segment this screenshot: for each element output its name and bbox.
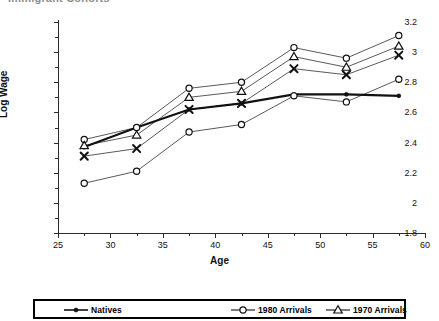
y-axis-minor-tick xyxy=(55,37,58,38)
x-axis-tick-label: 50 xyxy=(315,240,325,250)
y-axis-tick xyxy=(54,82,59,83)
x-axis-tick xyxy=(215,233,216,238)
legend-item-natives[interactable]: Natives xyxy=(63,302,122,318)
y-axis-minor-tick xyxy=(55,188,58,189)
y-axis-tick-label: 3.2 xyxy=(404,17,417,27)
legend-label: 1970 Arrivals xyxy=(353,305,407,315)
y-axis-tick xyxy=(54,22,59,23)
x-axis-title: Age xyxy=(0,255,439,266)
y-axis-tick xyxy=(54,143,59,144)
data-point-filled-circle xyxy=(74,308,78,312)
legend-label: 1980 Arrivals xyxy=(258,305,312,315)
data-point-open-circle xyxy=(240,307,246,313)
legend-marker-open-triangle-icon xyxy=(325,303,351,317)
x-axis-minor-tick xyxy=(84,233,85,236)
y-axis-tick-label: 2 xyxy=(412,198,417,208)
y-axis-tick-label: 3 xyxy=(412,47,417,57)
x-axis-tick xyxy=(320,233,321,238)
x-axis-tick-label: 45 xyxy=(263,240,273,250)
legend-item-1970-arrivals[interactable]: 1970 Arrivals xyxy=(325,302,407,318)
x-axis-tick xyxy=(110,233,111,238)
x-axis-tick xyxy=(163,233,164,238)
y-axis-tick-label: 2.6 xyxy=(404,107,417,117)
x-axis-minor-tick xyxy=(189,233,190,236)
y-axis-tick-label: 1.8 xyxy=(404,228,417,238)
x-axis-tick xyxy=(58,233,59,238)
y-axis-tick xyxy=(54,173,59,174)
x-axis-tick xyxy=(425,233,426,238)
y-axis-title: Log Wage xyxy=(0,71,9,118)
x-axis-tick-label: 25 xyxy=(53,240,63,250)
chart-legend: Natives1980 Arrivals1970 Arrivals xyxy=(33,299,406,319)
y-axis-minor-tick xyxy=(55,218,58,219)
x-axis-tick xyxy=(268,233,269,238)
y-axis-tick-label: 2.2 xyxy=(404,168,417,178)
y-axis-tick xyxy=(54,52,59,53)
x-axis-tick-label: 40 xyxy=(210,240,220,250)
y-axis-minor-tick xyxy=(55,67,58,68)
x-axis-tick-label: 55 xyxy=(368,240,378,250)
legend-marker-filled-circle-icon xyxy=(63,303,89,317)
legend-label: Natives xyxy=(91,305,122,315)
x-axis-tick-label: 35 xyxy=(158,240,168,250)
x-axis-tick xyxy=(373,233,374,238)
x-axis-minor-tick xyxy=(399,233,400,236)
x-axis-minor-tick xyxy=(242,233,243,236)
y-axis-tick xyxy=(54,203,59,204)
y-axis-tick xyxy=(54,112,59,113)
x-axis-tick-label: 30 xyxy=(105,240,115,250)
plot-area: 1.822.22.42.62.833.22530354045505560 xyxy=(58,22,425,233)
y-axis-tick-label: 2.8 xyxy=(404,77,417,87)
chart-figure: 1.822.22.42.62.833.22530354045505560 Log… xyxy=(0,0,439,285)
legend-item-1980-arrivals[interactable]: 1980 Arrivals xyxy=(230,302,312,318)
y-axis-minor-tick xyxy=(55,128,58,129)
x-axis-tick-label: 60 xyxy=(420,240,430,250)
y-axis-minor-tick xyxy=(55,158,58,159)
y-axis-minor-tick xyxy=(55,97,58,98)
x-axis-minor-tick xyxy=(137,233,138,236)
x-axis-minor-tick xyxy=(294,233,295,236)
data-point-open-triangle xyxy=(334,306,342,313)
y-axis-tick-label: 2.4 xyxy=(404,138,417,148)
legend-marker-open-circle-icon xyxy=(230,303,256,317)
x-axis-minor-tick xyxy=(346,233,347,236)
